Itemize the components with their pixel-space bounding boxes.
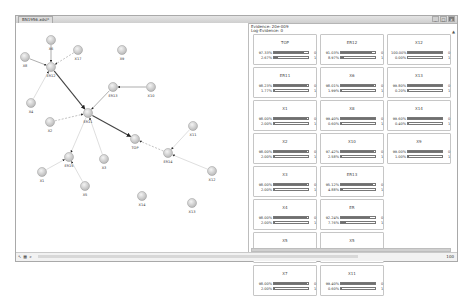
edge-ER11-TOP[interactable] [92, 115, 130, 136]
card-node-name: ER13 [321, 172, 383, 177]
node-card[interactable]: ER1198.23%01.77%1 [253, 67, 317, 98]
node-card[interactable]: ER1291.03%08.97%1 [320, 34, 384, 65]
node-label: ER14 [163, 160, 173, 164]
node-X2[interactable]: X2 [46, 118, 55, 134]
minimize-button[interactable]: _ [432, 16, 439, 22]
state-probability: 1.99% [324, 89, 339, 93]
node-card[interactable]: X899.40%00.60%1 [320, 100, 384, 131]
node-X12[interactable]: X12 [208, 167, 217, 183]
node-X13[interactable]: X13 [188, 199, 197, 215]
node-card[interactable]: X798.00%02.00%1 [253, 265, 317, 296]
edge-ER14-TOP[interactable] [140, 141, 164, 151]
node-card[interactable]: ER92.24%07.76%1 [320, 199, 384, 230]
state-row-1: 0.00%1 [391, 55, 450, 60]
node-X6[interactable]: X6 [47, 36, 56, 52]
node-card[interactable]: X198.00%02.00%1 [253, 100, 317, 131]
document-tab[interactable]: BN1956.xdsl* [18, 16, 53, 23]
state-label: 0 [314, 216, 316, 220]
grid-icon[interactable]: ▦ [23, 254, 27, 259]
maximize-button[interactable]: □ [440, 16, 447, 22]
zoom-level[interactable]: 100 [446, 254, 454, 259]
node-label: X14 [139, 203, 147, 207]
probability-bar [273, 155, 309, 158]
node-card[interactable]: X1199.40%00.60%1 [320, 265, 384, 296]
node-ER11[interactable]: ER11 [83, 109, 92, 125]
node-card[interactable]: X498.00%02.00%1 [253, 199, 317, 230]
node-label: ER15 [64, 164, 73, 168]
edge-X17-ER12[interactable] [55, 53, 74, 65]
state-probability: 0.60% [324, 122, 339, 126]
network-canvas[interactable]: X6X8X17X9ER12ER13X10X4X2ER11X11TOPER14X3… [16, 23, 249, 255]
state-row-1: 2.67%1 [257, 55, 316, 60]
state-label: 1 [381, 221, 383, 225]
edge-X11-ER14[interactable] [171, 130, 189, 150]
arrow-icon[interactable]: » [29, 254, 31, 259]
node-card[interactable]: X1097.42%02.58%1 [320, 133, 384, 164]
close-button[interactable]: x [448, 16, 455, 22]
node-X9[interactable]: X9 [118, 46, 127, 62]
edge-X12-ER14[interactable] [173, 155, 208, 169]
node-ER13[interactable]: ER13 [108, 83, 117, 99]
node-card[interactable]: X999.00%01.00%1 [387, 133, 451, 164]
edge-ER13-ER11[interactable] [91, 91, 109, 110]
state-label: 1 [314, 155, 316, 159]
node-ER15[interactable]: ER15 [64, 153, 73, 169]
state-probability: 99.40% [324, 117, 339, 121]
node-X10[interactable]: X10 [147, 83, 156, 99]
evidence-panel: _ □ x Evidence: 20e-009 Log-Evidence: 0 … [249, 23, 457, 255]
state-probability: 2.00% [257, 155, 272, 159]
state-probability: 0.20% [391, 89, 406, 93]
node-X14[interactable]: X14 [138, 192, 147, 208]
probability-bar [340, 216, 376, 219]
node-card[interactable]: TOP97.33%02.67%1 [253, 34, 317, 65]
node-card[interactable]: X698.01%01.99%1 [320, 67, 384, 98]
card-node-name: ER12 [321, 40, 383, 45]
node-card[interactable]: X12100.00%00.00%1 [387, 34, 451, 65]
state-probability: 98.00% [257, 117, 272, 121]
node-card[interactable]: X1499.60%00.40%1 [387, 100, 451, 131]
node-label: X11 [190, 133, 197, 137]
node-card[interactable]: X398.00%02.00%1 [253, 166, 317, 197]
empty-cell [387, 199, 451, 230]
probability-bar [340, 51, 376, 54]
node-card[interactable]: X1399.80%00.20%1 [387, 67, 451, 98]
node-label: X10 [148, 94, 155, 98]
node-X4[interactable]: X4 [27, 99, 36, 115]
pointer-icon[interactable]: ↖ [18, 254, 21, 259]
card-node-name: X13 [388, 73, 450, 78]
edge-X8-ER12[interactable] [30, 59, 47, 65]
edge-X1-ER15[interactable] [46, 159, 64, 169]
node-label: X5 [83, 193, 88, 197]
state-label: 0 [314, 117, 316, 121]
node-X8[interactable]: X8 [21, 53, 30, 69]
state-label: 0 [381, 51, 383, 55]
probability-bar [340, 117, 376, 120]
node-X5[interactable]: X5 [81, 182, 90, 198]
bayesian-network-graph[interactable]: X6X8X17X9ER12ER13X10X4X2ER11X11TOPER14X3… [16, 23, 248, 247]
state-row-1: 7.76%1 [324, 220, 383, 225]
state-row-1: 8.97%1 [324, 55, 383, 60]
node-ER14[interactable]: ER14 [163, 149, 173, 165]
probability-bar [273, 84, 309, 87]
node-TOP[interactable]: TOP [130, 135, 139, 151]
node-card[interactable]: X298.00%02.00%1 [253, 133, 317, 164]
node-label: X8 [23, 64, 28, 68]
card-node-name: X5 [321, 238, 383, 243]
card-node-name: X5 [254, 238, 316, 243]
edge-X2-ER11[interactable] [55, 114, 83, 121]
state-row-1: 0.60%1 [324, 286, 383, 291]
probability-bar [340, 122, 376, 125]
scroll-up-icon[interactable]: ▲ [452, 29, 455, 34]
node-card[interactable]: ER1395.12%04.88%1 [320, 166, 384, 197]
node-X1[interactable]: X1 [38, 168, 47, 184]
node-X17[interactable]: X17 [74, 46, 83, 62]
edge-ER12-ER11[interactable] [54, 71, 85, 109]
state-probability: 92.24% [324, 216, 339, 220]
node-X3[interactable]: X3 [100, 155, 109, 171]
probability-bar [340, 282, 376, 285]
status-bar: ↖ ▦ » 100 [16, 252, 457, 261]
card-node-name: X9 [388, 139, 450, 144]
node-ER12[interactable]: ER12 [46, 63, 55, 79]
node-X11[interactable]: X11 [189, 122, 198, 138]
state-label: 0 [381, 150, 383, 154]
